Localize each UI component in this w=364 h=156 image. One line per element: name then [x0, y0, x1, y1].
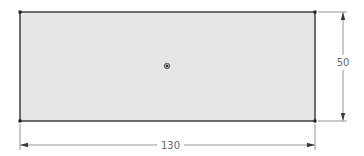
vertex-bottom-right[interactable]: [314, 120, 317, 123]
vertex-bottom-left[interactable]: [19, 120, 22, 123]
height-dimension-label[interactable]: 50: [337, 57, 350, 68]
height-dimension[interactable]: 50: [318, 12, 349, 121]
center-point-icon[interactable]: [164, 63, 170, 69]
width-dimension[interactable]: 130: [20, 124, 315, 151]
width-dimension-label[interactable]: 130: [161, 140, 180, 151]
vertex-top-right[interactable]: [314, 11, 317, 14]
sketch-canvas[interactable]: 50 130: [0, 0, 364, 156]
vertex-top-left[interactable]: [19, 11, 22, 14]
